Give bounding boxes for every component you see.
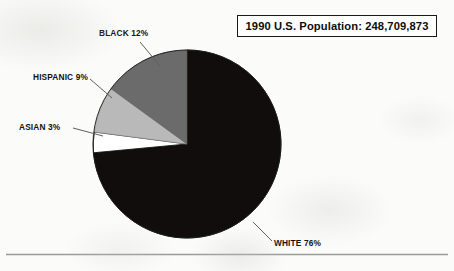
leader-line-hispanic <box>90 79 112 98</box>
population-title-box: 1990 U.S. Population: 248,709,873 <box>237 15 437 37</box>
slice-label-asian: ASIAN 3% <box>19 122 60 132</box>
slice-label-hispanic: HISPANIC 9% <box>33 72 88 82</box>
slice-label-black: BLACK 12% <box>99 28 148 38</box>
leader-line-white <box>253 222 272 241</box>
slice-label-white: WHITE 76% <box>274 238 321 248</box>
population-title-text: 1990 U.S. Population: 248,709,873 <box>245 20 428 32</box>
pie-chart-figure <box>0 0 454 271</box>
